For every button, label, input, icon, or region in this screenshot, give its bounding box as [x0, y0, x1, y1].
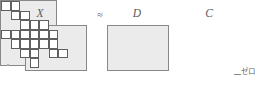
sparse-cell	[49, 49, 59, 59]
sparse-cell	[49, 39, 59, 49]
sparse-cell	[30, 49, 40, 59]
matrix-label-x: X	[28, 8, 52, 20]
sparse-cell	[39, 30, 49, 40]
sparse-cell	[1, 1, 11, 11]
sparse-cell	[30, 58, 40, 68]
sparse-cell	[1, 30, 11, 40]
sparse-cell	[49, 30, 59, 40]
sparse-cell	[39, 20, 49, 30]
sparse-cell	[39, 39, 49, 49]
left-stray-dot	[7, 64, 9, 66]
sparse-cell	[30, 39, 40, 49]
sparse-cell	[11, 30, 21, 40]
sparse-cell	[30, 30, 40, 40]
sparse-cell	[20, 11, 30, 21]
zero-leader-line	[234, 74, 241, 75]
approximately-equal-operator: ≈	[88, 10, 112, 20]
dictionary-learning-figure: X ≈ D C ゼロ	[0, 0, 270, 103]
sparse-cell	[11, 39, 21, 49]
sparse-cell	[20, 39, 30, 49]
sparse-cell	[20, 30, 30, 40]
sparse-cell	[11, 1, 21, 11]
sparse-cell	[11, 11, 21, 21]
zero-annotation-label: ゼロ	[241, 68, 255, 76]
sparse-cell	[20, 49, 30, 59]
matrix-label-c: C	[197, 8, 221, 20]
sparse-cell	[30, 20, 40, 30]
sparse-cell	[58, 49, 68, 59]
matrix-label-d: D	[125, 8, 149, 20]
matrix-box-d	[107, 25, 169, 71]
sparse-cell	[20, 20, 30, 30]
